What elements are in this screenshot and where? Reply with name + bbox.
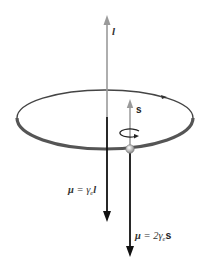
spin-moment-label: μ = 2γes <box>134 229 171 242</box>
electron-sphere <box>126 145 134 153</box>
orbit-back <box>17 90 193 118</box>
l-label: l <box>112 25 116 37</box>
l-arrowhead-icon <box>104 15 111 25</box>
orbit-front <box>17 118 193 149</box>
spin-rotation-arrow-icon <box>134 134 139 139</box>
s-arrowhead-icon <box>127 99 133 108</box>
spin-moment-arrowhead-icon <box>126 246 134 257</box>
magnetic-moment-diagram: l s μ = γel μ = 2γes <box>0 0 209 272</box>
spin-rotation-loop-back <box>125 129 139 131</box>
orbital-moment-label: μ = γel <box>67 184 96 196</box>
s-label: s <box>136 104 142 115</box>
orbital-moment-arrowhead-icon <box>103 211 111 222</box>
spin-rotation-loop <box>120 130 135 138</box>
